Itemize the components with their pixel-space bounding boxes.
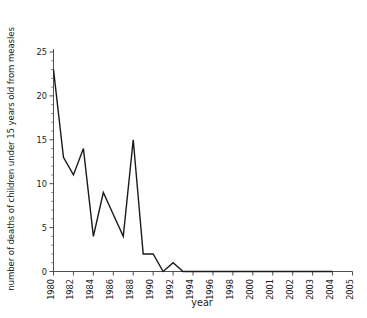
data-series-line [54,70,333,272]
y-tick-label: 15 [37,135,47,145]
y-tick-label: 0 [42,267,47,277]
plot-area: 0510152025198019821984198619881990199219… [0,0,367,318]
y-tick-label: 20 [37,91,47,101]
x-axis-title: year [52,297,352,308]
y-tick-label: 10 [37,179,47,189]
y-tick-label: 5 [42,223,47,233]
y-tick-label: 25 [37,47,47,57]
measles-deaths-line-chart: number of deaths of children under 15 ye… [0,0,367,318]
